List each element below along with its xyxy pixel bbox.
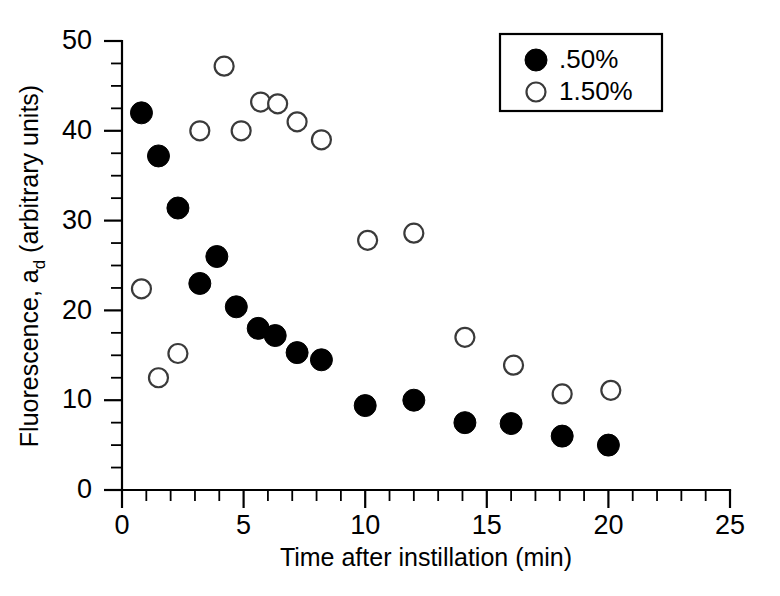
y-axis-title-tail: (arbitrary units): [15, 85, 43, 260]
legend: .50% 1.50%: [500, 34, 662, 111]
x-tick-label: 25: [715, 510, 745, 540]
x-tick-label: 10: [350, 510, 380, 540]
data-point-filled-circle: [597, 434, 619, 456]
data-point-filled-circle: [310, 349, 332, 371]
data-point-filled-circle: [551, 425, 573, 447]
x-axis-tick-labels: 0510152025: [114, 510, 745, 540]
data-point-filled-circle: [286, 342, 308, 364]
x-tick-label: 20: [593, 510, 623, 540]
data-point-open-circle: [553, 384, 572, 403]
scatter-chart: 01020304050 0510152025 Fluorescence, ad …: [0, 0, 780, 596]
data-point-filled-circle: [264, 325, 286, 347]
y-tick-label: 50: [62, 25, 92, 55]
y-tick-label: 10: [62, 384, 92, 414]
y-tick-label: 0: [77, 474, 92, 504]
data-point-filled-circle: [225, 296, 247, 318]
data-point-filled-circle: [354, 395, 376, 417]
data-point-filled-circle: [500, 413, 522, 435]
data-point-open-circle: [504, 356, 523, 375]
data-point-open-circle: [168, 344, 187, 363]
svg-text:Fluorescence, ad (arbitrary un: Fluorescence, ad (arbitrary units): [15, 85, 49, 447]
y-axis-title-main: Fluorescence, a: [15, 269, 43, 447]
x-axis-title: Time after instillation (min): [280, 543, 572, 571]
data-point-open-circle: [190, 121, 209, 140]
data-point-filled-circle: [454, 412, 476, 434]
data-point-open-circle: [132, 279, 151, 298]
y-tick-label: 20: [62, 295, 92, 325]
x-axis-ticks: [122, 490, 730, 508]
legend-label-1: 1.50%: [559, 76, 633, 106]
x-tick-label: 15: [472, 510, 502, 540]
data-point-open-circle: [358, 231, 377, 250]
legend-label-0: .50%: [559, 44, 618, 74]
series-50-percent-points: [130, 102, 619, 456]
chart-page: 01020304050 0510152025 Fluorescence, ad …: [0, 0, 780, 596]
y-axis-title: Fluorescence, ad (arbitrary units): [15, 85, 49, 447]
data-point-filled-circle: [189, 272, 211, 294]
data-point-open-circle: [601, 381, 620, 400]
y-axis-ticks: [104, 41, 122, 490]
data-point-filled-circle: [206, 246, 228, 268]
x-tick-label: 0: [114, 510, 129, 540]
x-tick-label: 5: [236, 510, 251, 540]
data-point-open-circle: [288, 112, 307, 131]
y-tick-label: 40: [62, 115, 92, 145]
data-point-filled-circle: [403, 389, 425, 411]
data-point-filled-circle: [147, 145, 169, 167]
data-point-filled-circle: [167, 197, 189, 219]
y-axis-tick-labels: 01020304050: [62, 25, 92, 504]
y-tick-label: 30: [62, 205, 92, 235]
legend-marker-open-circle: [527, 83, 546, 102]
y-axis-title-subscript: d: [30, 260, 49, 269]
data-point-open-circle: [312, 130, 331, 149]
data-point-filled-circle: [130, 102, 152, 124]
data-point-open-circle: [232, 121, 251, 140]
data-point-open-circle: [149, 368, 168, 387]
legend-marker-filled-circle: [525, 49, 547, 71]
data-point-open-circle: [455, 328, 474, 347]
data-point-open-circle: [268, 94, 287, 113]
data-point-open-circle: [215, 57, 234, 76]
data-point-open-circle: [404, 224, 423, 243]
